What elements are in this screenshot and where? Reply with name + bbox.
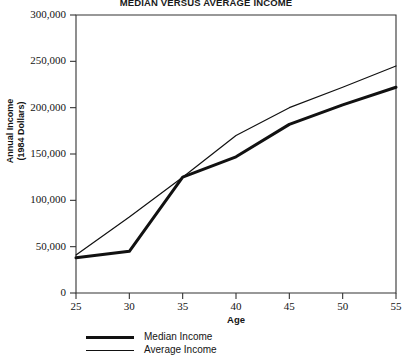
x-axis-ticks xyxy=(76,293,396,299)
y-tick-label: 300,000 xyxy=(30,9,66,20)
x-tick-label: 50 xyxy=(323,301,363,312)
data-series-group xyxy=(76,66,396,258)
y-tick-label: 250,000 xyxy=(30,55,66,66)
y-tick-label: 0 xyxy=(61,287,67,298)
y-tick-label: 50,000 xyxy=(36,241,66,252)
y-tick-label: 200,000 xyxy=(30,102,66,113)
legend-line-icon xyxy=(86,350,134,351)
y-tick-label: 150,000 xyxy=(30,148,66,159)
chart-legend: Median IncomeAverage Income xyxy=(86,332,316,357)
x-tick-label: 55 xyxy=(376,301,412,312)
x-tick-label: 25 xyxy=(56,301,96,312)
legend-item: Median Income xyxy=(86,332,316,343)
x-axis-title: Age xyxy=(76,314,396,325)
y-axis-ticks xyxy=(70,15,76,293)
legend-label: Median Income xyxy=(144,331,212,342)
y-tick-label: 100,000 xyxy=(30,194,66,205)
x-tick-label: 40 xyxy=(216,301,256,312)
chart-figure: MEDIAN VERSUS AVERAGE INCOME Annual Inco… xyxy=(0,0,412,357)
x-tick-label: 35 xyxy=(163,301,203,312)
series-line xyxy=(76,66,396,255)
x-tick-label: 30 xyxy=(109,301,149,312)
series-line xyxy=(76,87,396,258)
legend-item: Average Income xyxy=(86,345,316,356)
legend-line-icon xyxy=(86,336,134,339)
x-tick-label: 45 xyxy=(269,301,309,312)
legend-label: Average Income xyxy=(144,344,217,355)
